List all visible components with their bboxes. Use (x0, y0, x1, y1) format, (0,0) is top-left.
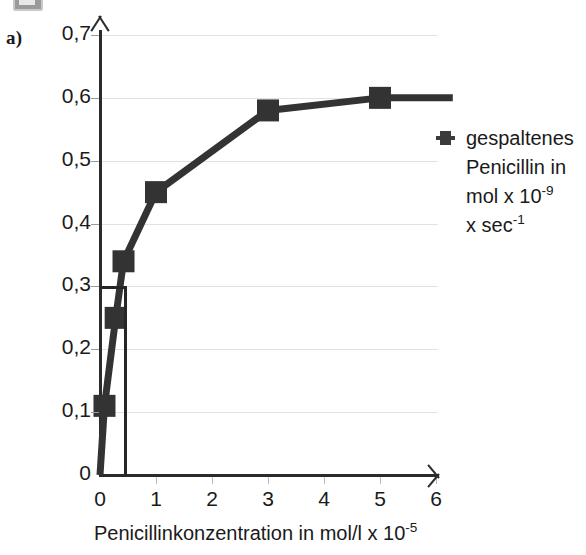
chart-page: a) 00,10,20,30,40,50,60,7 0123456 Penici… (0, 0, 586, 555)
y-axis-tick-mark (91, 98, 99, 99)
series-line (100, 98, 453, 475)
y-axis-tick-mark (91, 286, 99, 287)
y-axis-tick-mark (91, 412, 99, 413)
legend-text-line: mol x 10-9 (466, 182, 586, 211)
construction-line-vertical (124, 286, 127, 476)
data-point-marker (93, 395, 115, 417)
construction-line-horizontal (100, 286, 127, 289)
legend-square-marker-icon (437, 131, 454, 146)
chart-legend: gespaltenesPenicillin inmol x 10-9x sec-… (437, 124, 586, 240)
data-point-marker (257, 99, 279, 121)
y-axis-tick-mark (91, 349, 99, 350)
data-point-marker (369, 87, 391, 109)
y-axis-tick-mark (91, 161, 99, 162)
legend-entry-label: gespaltenesPenicillin inmol x 10-9x sec-… (466, 124, 586, 240)
y-axis-tick-mark (91, 224, 99, 225)
y-axis-tick-mark (91, 35, 99, 36)
x-axis-title: Penicillinkonzentration in mol/l x 10-5 (94, 522, 417, 545)
legend-text-line: x sec-1 (466, 211, 586, 240)
legend-text-line: gespaltenes (466, 124, 586, 153)
series-plot (0, 0, 586, 555)
data-point-marker (145, 181, 167, 203)
legend-text-line: Penicillin in (466, 153, 586, 182)
data-point-marker (113, 250, 135, 272)
